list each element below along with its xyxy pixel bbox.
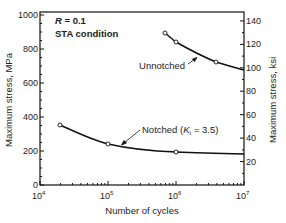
y-tick-label: 800: [23, 44, 38, 54]
right-axis-ticks: [240, 21, 244, 173]
x-axis-ticks: [40, 181, 244, 185]
x-tick-label: 107: [236, 190, 250, 201]
right-tick-labels: 20 40 60 80 100 120 140: [246, 16, 261, 167]
notched-arrow-icon: [122, 130, 141, 145]
left-axis-ticks: [40, 15, 44, 185]
y-tick-label: 600: [23, 78, 38, 88]
unnotched-arrow-icon: [188, 58, 197, 65]
y-right-tick-label: 80: [246, 86, 256, 96]
condition-annotation: STA condition: [55, 28, 119, 39]
x-tick-label: 106: [168, 190, 182, 201]
y-axis-title-left: Maximum stress, MPa: [3, 52, 14, 147]
y-tick-label: 400: [23, 112, 38, 122]
y-right-tick-label: 120: [246, 39, 261, 49]
data-point: [214, 60, 218, 64]
x-tick-label: 104: [32, 190, 46, 201]
notched-label: Notched (Kt = 3.5): [142, 124, 218, 136]
data-point: [163, 31, 167, 35]
data-point: [58, 123, 62, 127]
y-right-tick-label: 40: [246, 133, 256, 143]
y-right-tick-label: 20: [246, 157, 256, 167]
data-point: [174, 150, 178, 154]
y-tick-label: 1000: [18, 10, 38, 20]
x-tick-label: 105: [100, 190, 114, 201]
y-tick-label: 0: [33, 180, 38, 190]
x-axis-title: Number of cycles: [105, 205, 179, 216]
sn-fatigue-chart: 0 200 400 600 800 1000 20 40 60 80 100 1…: [0, 0, 286, 223]
y-tick-label: 200: [23, 146, 38, 156]
data-point: [106, 142, 110, 146]
unnotched-label: Unnotched: [139, 60, 185, 71]
left-tick-labels: 0 200 400 600 800 1000: [18, 10, 38, 190]
y-right-tick-label: 60: [246, 110, 256, 120]
x-tick-labels: 104 105 106 107: [32, 190, 250, 201]
y-right-tick-label: 140: [246, 16, 261, 26]
y-axis-title-right: Maximum stress, ksi: [267, 57, 278, 143]
data-point: [174, 40, 178, 44]
y-right-tick-label: 100: [246, 63, 261, 73]
r-ratio-annotation: R = 0.1: [55, 15, 87, 26]
